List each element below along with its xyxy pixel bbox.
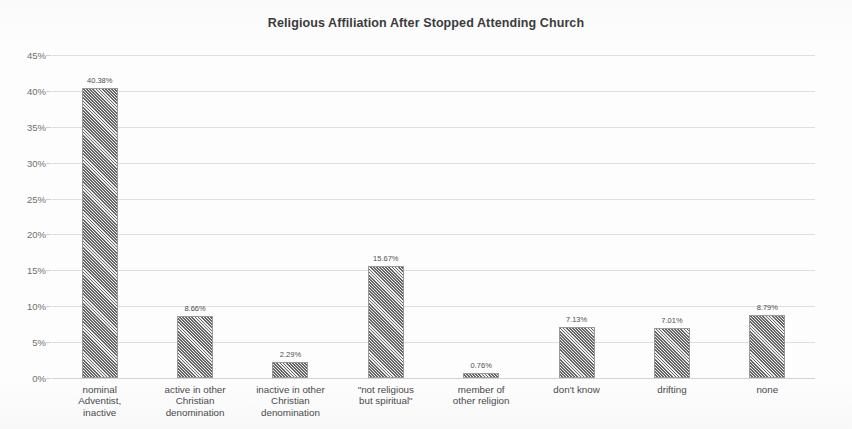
x-axis-category-label: "not religiousbut spiritual"	[338, 384, 433, 407]
x-axis-category-label: member ofother religion	[434, 384, 529, 407]
category-label-line: other religion	[434, 395, 529, 406]
bar-slot: 2.29%	[243, 55, 338, 378]
y-axis-tick-mark	[46, 199, 51, 200]
plot-area: 40.38%8.66%2.29%15.67%0.76%7.13%7.01%8.7…	[52, 55, 815, 378]
y-axis-tick-mark	[46, 163, 51, 164]
bar-value-label: 15.67%	[373, 254, 398, 263]
category-label-line: Christian	[243, 395, 338, 406]
x-axis-category-label: nominalAdventist,inactive	[52, 384, 147, 418]
bar[interactable]	[368, 266, 404, 378]
bar-value-label: 40.38%	[87, 76, 112, 85]
bar-value-label: 7.01%	[661, 316, 682, 325]
category-label-line: "not religious	[338, 384, 433, 395]
bar-slot: 7.01%	[624, 55, 719, 378]
x-axis-category-label: active in otherChristiandenomination	[147, 384, 242, 418]
bar[interactable]	[177, 316, 213, 378]
y-axis-tick-mark	[46, 91, 51, 92]
category-label-line: don't know	[529, 384, 624, 395]
category-label-line: member of	[434, 384, 529, 395]
bar[interactable]	[463, 373, 499, 378]
bar-slot: 7.13%	[529, 55, 624, 378]
bar[interactable]	[559, 327, 595, 378]
category-label-line: nominal	[52, 384, 147, 395]
bar-slot: 8.66%	[147, 55, 242, 378]
y-axis-tick-mark	[46, 378, 51, 379]
bar-slot: 8.79%	[720, 55, 815, 378]
y-axis-ticks	[0, 55, 52, 378]
x-axis-category-label: inactive in otherChristiandenomination	[243, 384, 338, 418]
category-label-line: inactive	[52, 407, 147, 418]
bar-value-label: 0.76%	[471, 361, 492, 370]
bar-value-label: 2.29%	[280, 350, 301, 359]
bar-value-label: 8.79%	[757, 303, 778, 312]
y-axis-tick-mark	[46, 270, 51, 271]
bar[interactable]	[272, 362, 308, 378]
category-label-line: active in other	[147, 384, 242, 395]
bar-value-label: 7.13%	[566, 315, 587, 324]
category-label-line: inactive in other	[243, 384, 338, 395]
gridline	[52, 378, 815, 379]
x-axis-category-label: drifting	[624, 384, 719, 395]
y-axis-tick-mark	[46, 55, 51, 56]
category-label-line: drifting	[624, 384, 719, 395]
category-label-line: denomination	[243, 407, 338, 418]
bar-slot: 40.38%	[52, 55, 147, 378]
bar-slot: 15.67%	[338, 55, 433, 378]
y-axis-tick-mark	[46, 306, 51, 307]
y-axis-tick-mark	[46, 342, 51, 343]
chart-title: Religious Affiliation After Stopped Atte…	[0, 16, 852, 30]
y-axis-tick-mark	[46, 127, 51, 128]
bar[interactable]	[82, 88, 118, 378]
category-label-line: none	[720, 384, 815, 395]
x-axis-category-label: none	[720, 384, 815, 395]
category-label-line: Adventist,	[52, 395, 147, 406]
category-label-line: Christian	[147, 395, 242, 406]
bar[interactable]	[749, 315, 785, 378]
bar-value-label: 8.66%	[184, 304, 205, 313]
x-axis-category-labels: nominalAdventist,inactiveactive in other…	[52, 384, 815, 429]
bar-slot: 0.76%	[434, 55, 529, 378]
chart-figure: Religious Affiliation After Stopped Atte…	[0, 0, 852, 429]
bar[interactable]	[654, 328, 690, 378]
category-label-line: but spiritual"	[338, 395, 433, 406]
y-axis-tick-mark	[46, 234, 51, 235]
category-label-line: denomination	[147, 407, 242, 418]
x-axis-category-label: don't know	[529, 384, 624, 395]
